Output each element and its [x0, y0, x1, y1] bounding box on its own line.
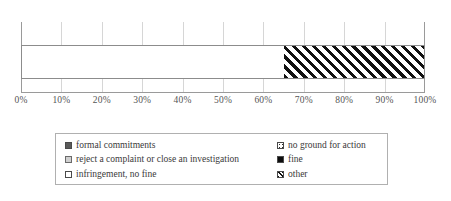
tick-label-60: 60%: [254, 95, 272, 105]
legend-label-no-ground-for-action: no ground for action: [288, 141, 366, 151]
legend-item-reject-complaint: reject a complaint or close an investiga…: [65, 155, 277, 165]
legend-label-other: other: [288, 170, 308, 180]
legend-item-other: other: [277, 170, 380, 180]
legend-swatch-solid-dark-icon: [65, 142, 72, 149]
tick-label-50: 50%: [214, 95, 232, 105]
x-axis-tick-labels: 0% 10% 20% 30% 40% 50% 60% 70% 80% 90% 1…: [21, 95, 425, 111]
legend-swatch-grey-fill-icon: [65, 156, 72, 163]
legend-swatch-solid-black-icon: [277, 156, 284, 163]
legend-label-infringement-no-fine: infringement, no fine: [76, 170, 156, 180]
legend-item-no-ground-for-action: no ground for action: [277, 141, 380, 151]
tick-label-10: 10%: [52, 95, 70, 105]
tick-label-90: 90%: [376, 95, 394, 105]
tick-label-40: 40%: [174, 95, 192, 105]
tick-label-70: 70%: [295, 95, 313, 105]
tick-label-80: 80%: [335, 95, 353, 105]
legend-item-formal-commitments: formal commitments: [65, 141, 277, 151]
bar-segment-other: [284, 45, 425, 79]
tick-label-20: 20%: [93, 95, 111, 105]
legend-swatch-diagonal-hatch-icon: [277, 171, 284, 178]
tick-label-30: 30%: [133, 95, 151, 105]
legend-item-fine: fine: [277, 155, 380, 165]
legend-item-infringement-no-fine: infringement, no fine: [65, 170, 277, 180]
legend-label-fine: fine: [288, 155, 303, 165]
tick-label-0: 0%: [14, 95, 27, 105]
legend-label-formal-commitments: formal commitments: [76, 141, 155, 151]
legend-swatch-sparse-dots-icon: [277, 142, 284, 149]
bar-segment-reject-complaint: [21, 45, 284, 79]
legend-label-reject-complaint: reject a complaint or close an investiga…: [76, 155, 239, 165]
chart-legend: formal commitments no ground for action …: [55, 133, 388, 185]
plot-area: [21, 22, 425, 92]
stacked-bar-chart: 0% 10% 20% 30% 40% 50% 60% 70% 80% 90% 1…: [0, 0, 451, 201]
x-axis-line: [21, 92, 425, 93]
legend-swatch-white-icon: [65, 171, 72, 178]
tick-label-100: 100%: [414, 95, 437, 105]
bar-series-row: [21, 45, 425, 79]
